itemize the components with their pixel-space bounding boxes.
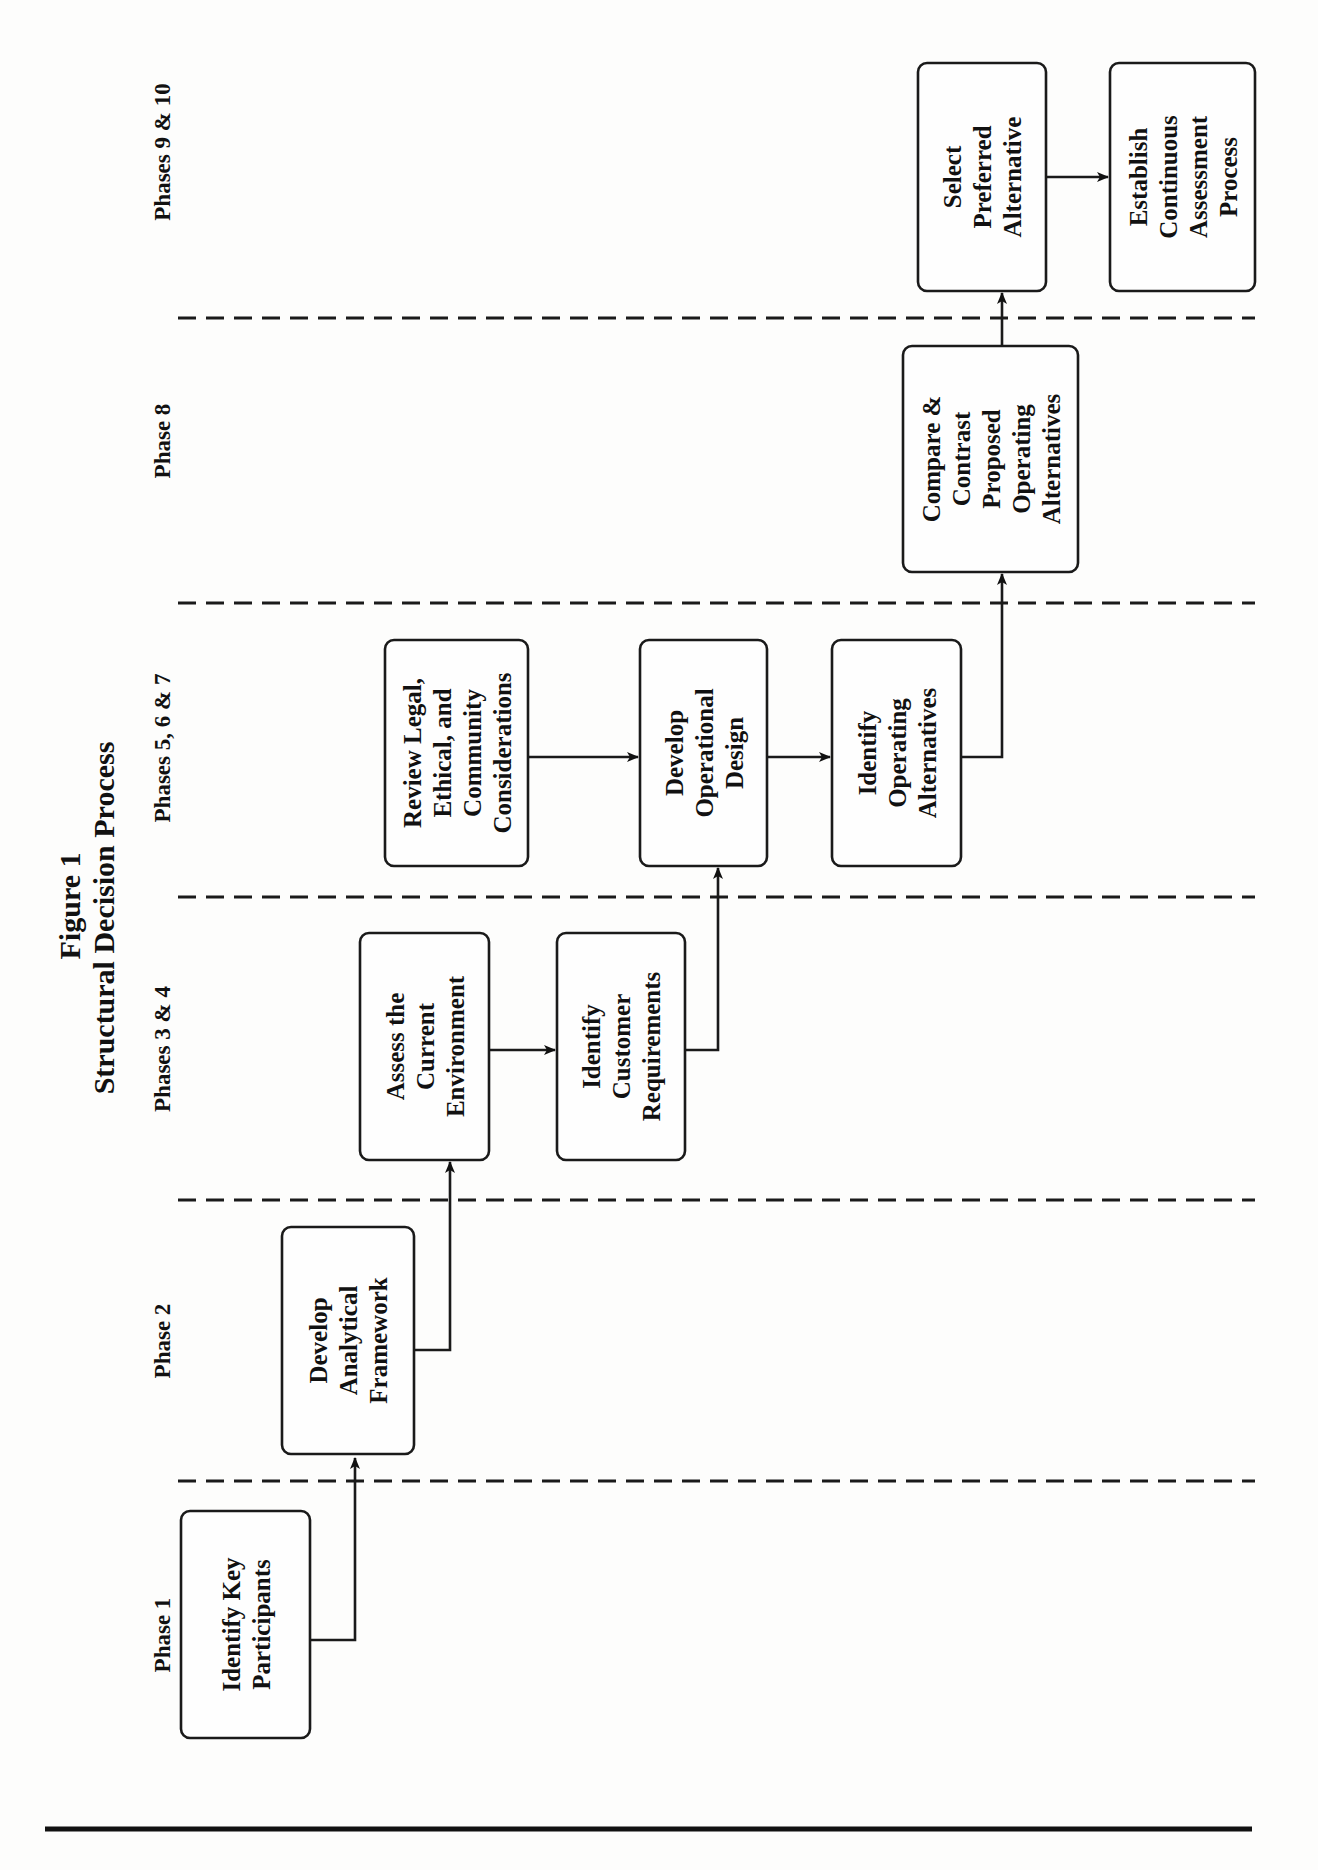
step-label-line: Requirements: [638, 971, 665, 1121]
step-label-line: Current: [412, 1002, 439, 1090]
step-label-line: Establish: [1125, 128, 1152, 227]
structural-decision-process-diagram: Figure 1 Structural Decision Process Pha…: [0, 0, 1318, 1870]
step-label-line: Select: [939, 145, 966, 208]
step-identify-customer-requirements: IdentifyCustomerRequirements: [557, 933, 685, 1160]
flow-arrow: [961, 574, 1002, 757]
step-label-line: Ethical, and: [429, 688, 456, 817]
phase-label: Phase 8: [150, 404, 175, 479]
step-label-line: Continuous: [1155, 115, 1182, 239]
step-label-line: Operational: [691, 688, 718, 817]
step-establish-continuous-assessment: EstablishContinuousAssessmentProcess: [1110, 63, 1255, 291]
phase-label: Phase 2: [150, 1304, 175, 1379]
step-label-line: Identify: [578, 1004, 605, 1089]
phase-label: Phases 9 & 10: [150, 83, 175, 220]
step-label-line: Environment: [442, 975, 469, 1117]
figure-title: Structural Decision Process: [87, 742, 120, 1095]
flow-arrow: [414, 1162, 450, 1350]
step-label-line: Review Legal,: [399, 678, 426, 828]
step-assess-current-environment: Assess theCurrentEnvironment: [360, 933, 489, 1160]
step-label-line: Assess the: [382, 993, 409, 1101]
step-label-line: Considerations: [489, 672, 516, 833]
step-label-line: Identify: [854, 710, 881, 795]
step-label-line: Assessment: [1185, 115, 1212, 238]
phase-label: Phases 5, 6 & 7: [150, 674, 175, 823]
step-label-line: Develop: [305, 1297, 332, 1383]
step-compare-contrast-alternatives: Compare &ContrastProposedOperatingAltern…: [903, 346, 1078, 572]
step-label-line: Customer: [608, 994, 635, 1100]
figure-label: Figure 1: [53, 853, 86, 960]
step-label-line: Contrast: [948, 411, 975, 506]
step-label-line: Preferred: [969, 125, 996, 228]
step-develop-operational-design: DevelopOperationalDesign: [640, 640, 767, 866]
step-label-line: Alternatives: [1038, 393, 1065, 524]
step-label-line: Alternative: [999, 117, 1026, 238]
step-label-line: Process: [1215, 137, 1242, 217]
flow-arrow: [685, 868, 718, 1050]
phase-label: Phase 1: [150, 1598, 175, 1673]
step-select-preferred-alternative: SelectPreferredAlternative: [918, 63, 1046, 291]
step-identify-operating-alternatives: IdentifyOperatingAlternatives: [832, 640, 961, 866]
step-label-line: Identify Key: [218, 1557, 245, 1692]
step-review-legal-ethical-community: Review Legal,Ethical, andCommunityConsid…: [385, 640, 528, 866]
step-label-line: Proposed: [978, 409, 1005, 509]
step-label-line: Community: [459, 689, 486, 817]
step-box: [181, 1511, 310, 1738]
step-identify-key-participants: Identify KeyParticipants: [181, 1511, 310, 1738]
phase-label: Phases 3 & 4: [150, 986, 175, 1112]
step-develop-analytical-framework: DevelopAnalyticalFramework: [282, 1227, 414, 1454]
step-label-line: Operating: [884, 698, 911, 808]
flow-arrow: [310, 1458, 355, 1640]
step-label-line: Analytical: [335, 1286, 362, 1396]
step-label-line: Operating: [1008, 404, 1035, 514]
step-label-line: Framework: [365, 1277, 392, 1403]
step-label-line: Develop: [661, 710, 688, 796]
step-label-line: Design: [721, 717, 748, 789]
step-label-line: Alternatives: [914, 687, 941, 818]
step-label-line: Participants: [248, 1559, 275, 1690]
step-label-line: Compare &: [918, 396, 945, 523]
